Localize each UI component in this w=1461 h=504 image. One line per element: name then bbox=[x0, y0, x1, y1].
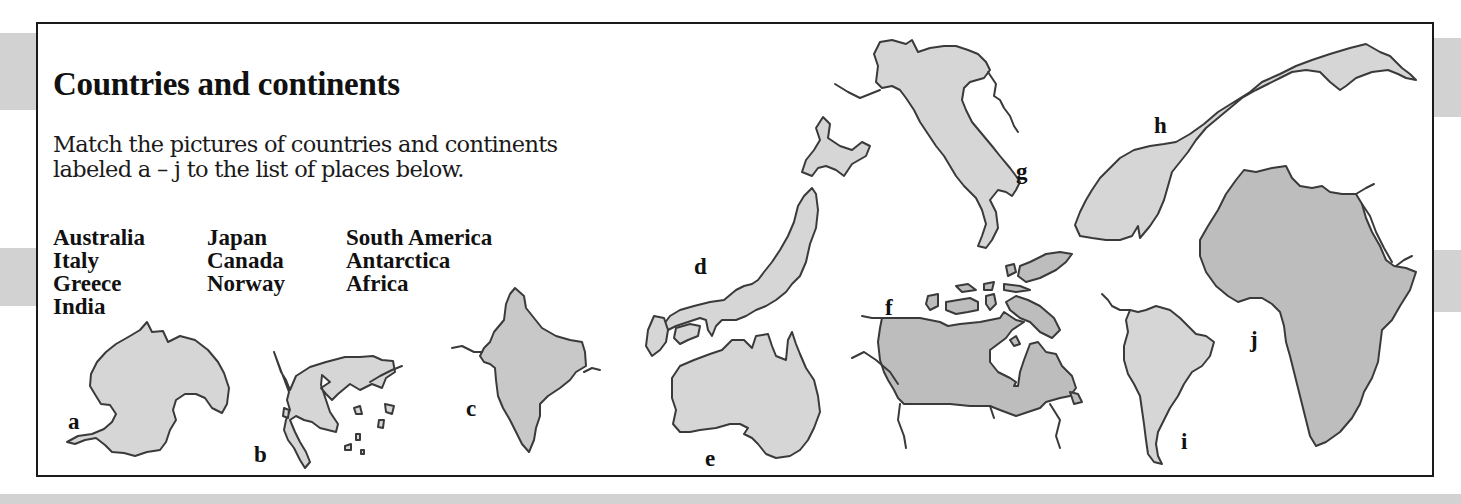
map-australia bbox=[672, 332, 820, 458]
label-h: h bbox=[1154, 114, 1167, 137]
label-e: e bbox=[705, 447, 715, 470]
map-antarctica bbox=[67, 322, 229, 456]
map-south-america bbox=[1102, 294, 1214, 464]
label-j: j bbox=[1250, 328, 1258, 351]
label-i: i bbox=[1181, 430, 1187, 453]
maps-canvas bbox=[0, 0, 1461, 504]
label-b: b bbox=[254, 443, 267, 466]
map-japan bbox=[646, 117, 870, 356]
map-greece bbox=[274, 352, 402, 468]
map-africa bbox=[1200, 166, 1416, 446]
map-india bbox=[452, 288, 600, 452]
label-g: g bbox=[1016, 160, 1028, 183]
label-a: a bbox=[68, 410, 80, 433]
label-f: f bbox=[885, 296, 893, 319]
label-c: c bbox=[466, 397, 476, 420]
map-canada bbox=[852, 252, 1082, 448]
label-d: d bbox=[694, 255, 707, 278]
